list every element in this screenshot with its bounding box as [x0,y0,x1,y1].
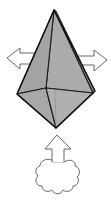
origami-diagram [0,0,111,204]
diagram-canvas [0,0,111,204]
inflate-arrow-icon [36,135,80,194]
folded-model [17,10,95,128]
